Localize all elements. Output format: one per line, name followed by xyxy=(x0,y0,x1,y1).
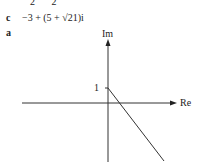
argand-diagram xyxy=(0,0,199,168)
im-axis-label: Im xyxy=(102,29,113,39)
re-axis-label: Re xyxy=(180,98,191,108)
im-axis-arrow-icon xyxy=(106,39,111,46)
re-axis-arrow-icon xyxy=(170,101,177,106)
locus-line xyxy=(108,88,164,161)
tick-label-1: 1 xyxy=(94,83,99,93)
